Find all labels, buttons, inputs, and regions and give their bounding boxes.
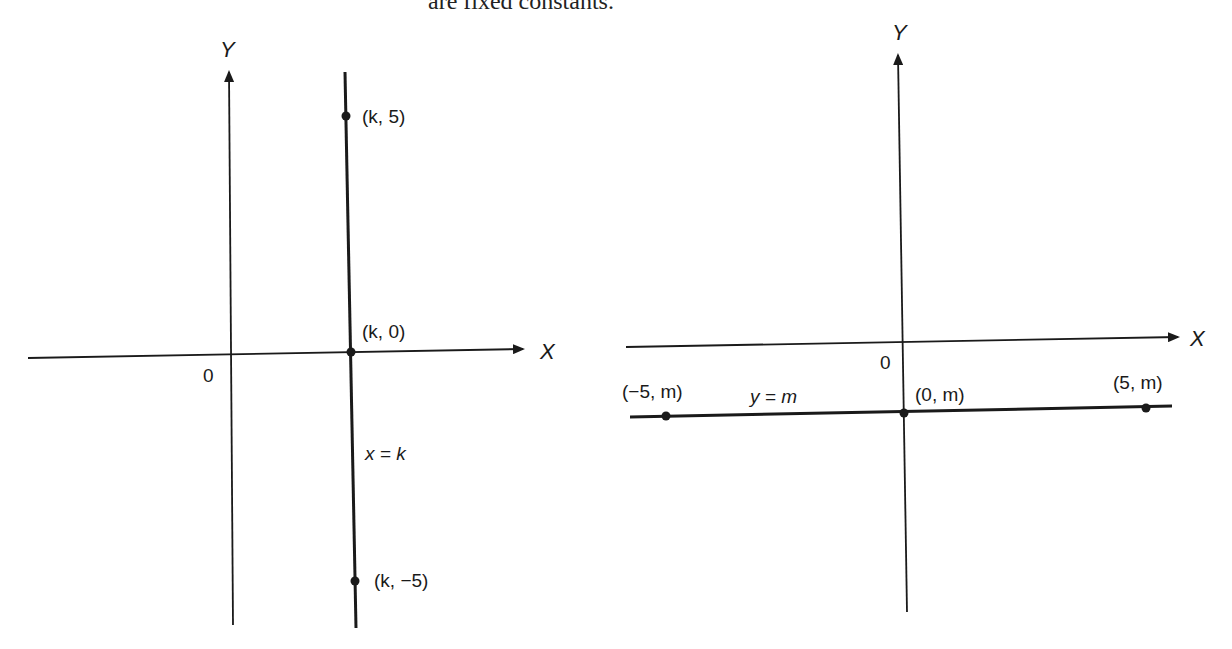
- right-y-axis: [898, 55, 907, 612]
- point-k-0: [347, 348, 356, 357]
- label-x-equals-k: x = k: [364, 443, 407, 464]
- label-0-m: (0, m): [915, 384, 965, 405]
- left-origin-label: 0: [203, 365, 214, 386]
- label-k-neg5: (k, −5): [374, 570, 428, 591]
- left-x-axis: [28, 349, 523, 358]
- label-y-equals-m: y = m: [748, 386, 797, 407]
- point-5-m: [1142, 404, 1151, 413]
- label-k-5: (k, 5): [362, 106, 405, 127]
- right-figure: Y X 0 (−5, m) y = m (0, m) (5, m): [622, 20, 1206, 612]
- left-y-axis-label: Y: [220, 37, 236, 62]
- label-neg5-m: (−5, m): [622, 381, 683, 402]
- right-origin-label: 0: [880, 352, 891, 373]
- left-x-axis-label: X: [539, 339, 556, 364]
- point-k-neg5: [351, 577, 360, 586]
- left-figure: Y X 0 (k, 5) (k, 0) x = k (k, −5): [28, 37, 556, 628]
- point-0-m: [900, 409, 909, 418]
- coordinate-diagrams: Y X 0 (k, 5) (k, 0) x = k (k, −5) Y X 0 …: [0, 0, 1232, 649]
- right-y-axis-label: Y: [892, 20, 908, 45]
- point-neg5-m: [662, 412, 671, 421]
- label-5-m: (5, m): [1113, 372, 1163, 393]
- left-y-axis: [229, 72, 233, 625]
- point-k-5: [342, 112, 351, 121]
- label-k-0: (k, 0): [362, 321, 405, 342]
- right-x-axis-label: X: [1189, 326, 1206, 351]
